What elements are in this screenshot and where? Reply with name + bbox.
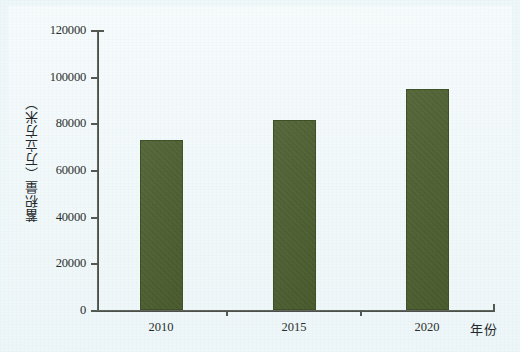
y-axis-label-20000: 20000: [26, 256, 86, 271]
y-axis-title: 蓄积量（万立方米）: [25, 96, 47, 222]
x-axis-label-2015: 2015: [264, 320, 324, 335]
x-axis-title: 年份: [470, 319, 498, 338]
bar-chart: 0 20000 40000 60000 80000 100000 120000 …: [0, 0, 520, 352]
y-axis-tick-60000: [91, 170, 98, 172]
bar-2010: [140, 140, 183, 310]
x-axis-end-cap: [493, 304, 495, 312]
y-axis-tick-100000: [91, 77, 98, 79]
x-axis-tick-1: [226, 310, 228, 316]
x-axis-tick-2: [360, 310, 362, 316]
chart-image-scan: 0 20000 40000 60000 80000 100000 120000 …: [0, 0, 520, 352]
x-axis-line: [97, 310, 495, 312]
y-axis-tick-80000: [91, 123, 98, 125]
x-axis-label-2010: 2010: [131, 320, 191, 335]
y-axis-end-cap: [97, 30, 104, 32]
y-axis-label-100000: 100000: [26, 70, 86, 85]
y-axis-label-0: 0: [26, 303, 86, 318]
x-axis-label-2020: 2020: [397, 320, 457, 335]
y-axis-tick-40000: [91, 217, 98, 219]
y-axis-tick-20000: [91, 263, 98, 265]
y-axis-tick-120000: [91, 30, 98, 32]
y-axis-label-120000: 120000: [26, 23, 86, 38]
bar-2020: [406, 89, 449, 310]
bar-2015: [273, 120, 316, 310]
